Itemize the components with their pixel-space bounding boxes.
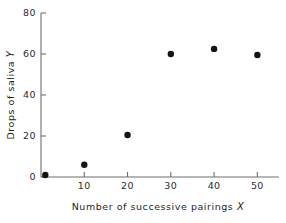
y-tick-label: 60 [23,48,36,59]
x-axis-title-text: Number of successive pairings [72,201,237,212]
y-tick-label: 20 [23,130,36,141]
x-tick-label: 40 [208,180,221,191]
chart-canvas: 0204060801020304050Number of successive … [0,0,286,223]
data-point [254,52,260,58]
data-point [81,162,87,168]
x-tick-label: 30 [164,180,177,191]
y-tick-label: 0 [30,171,36,182]
x-tick-label: 20 [121,180,134,191]
y-tick-label: 40 [23,89,36,100]
y-tick-label: 80 [23,7,36,18]
x-tick-label: 10 [78,180,91,191]
x-tick-label: 50 [251,180,264,191]
data-point [124,132,130,138]
y-axis-title-variable: Y [5,50,16,57]
y-axis-title: Drops of saliva Y [5,50,16,139]
y-axis-title-text: Drops of saliva [5,57,16,139]
data-point [168,51,174,57]
data-point [211,46,217,52]
scatter-plot-figure: 0204060801020304050Number of successive … [0,0,286,223]
data-point [42,172,48,178]
x-axis-title-variable: X [236,201,245,212]
x-axis-title: Number of successive pairings X [72,201,245,212]
